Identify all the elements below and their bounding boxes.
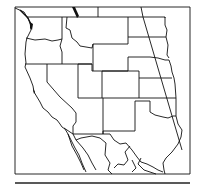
pacific-coast [15,8,86,172]
western-us-map [0,0,197,189]
map-frame [15,7,190,174]
canada-border [27,17,165,18]
